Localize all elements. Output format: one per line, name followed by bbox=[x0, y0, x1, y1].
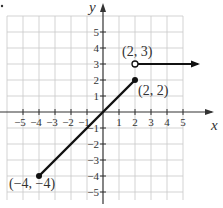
svg-text:−4: −4 bbox=[87, 170, 99, 182]
graph: −5 −4 −3 −2 −1 1 2 3 4 5 5 4 3 2 1 −1 −2… bbox=[0, 0, 223, 208]
svg-text:−1: −1 bbox=[87, 122, 99, 134]
label-closed-point: (2, 2) bbox=[138, 83, 169, 99]
svg-text:4: 4 bbox=[164, 116, 170, 128]
svg-text:2: 2 bbox=[132, 116, 138, 128]
svg-text:4: 4 bbox=[94, 42, 100, 54]
svg-text:−5: −5 bbox=[14, 116, 26, 128]
svg-text:−4: −4 bbox=[30, 116, 42, 128]
svg-text:−3: −3 bbox=[46, 116, 58, 128]
svg-text:−5: −5 bbox=[87, 186, 99, 198]
axes bbox=[0, 6, 212, 204]
svg-text:5: 5 bbox=[180, 116, 186, 128]
svg-text:3: 3 bbox=[94, 58, 100, 70]
svg-text:−2: −2 bbox=[87, 138, 99, 150]
svg-text:5: 5 bbox=[94, 26, 100, 38]
svg-text:−2: −2 bbox=[62, 116, 74, 128]
x-axis-arrow-icon bbox=[205, 109, 214, 115]
y-axis-label: y bbox=[87, 0, 96, 15]
x-axis-label: x bbox=[210, 117, 218, 133]
label-start-point: (−4, −4) bbox=[9, 176, 55, 192]
label-open-point: (2, 3) bbox=[122, 44, 153, 60]
y-axis-arrow-icon bbox=[100, 3, 106, 12]
svg-text:1: 1 bbox=[116, 116, 122, 128]
svg-text:1: 1 bbox=[94, 90, 100, 102]
x-tick-labels: −5 −4 −3 −2 −1 1 2 3 4 5 bbox=[14, 116, 186, 128]
svg-text:3: 3 bbox=[148, 116, 154, 128]
svg-text:−3: −3 bbox=[87, 154, 99, 166]
figure-marker bbox=[1, 5, 3, 7]
open-point bbox=[132, 61, 138, 67]
ray-arrow-icon bbox=[191, 61, 200, 68]
svg-text:2: 2 bbox=[94, 74, 100, 86]
